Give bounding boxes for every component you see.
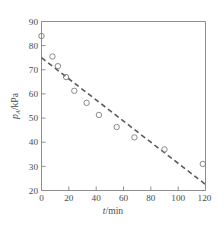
data-point	[84, 100, 89, 105]
y-axis-tick-labels: 20 30 40 50 60 70 80 90	[29, 17, 39, 196]
x-tick-label: 60	[119, 193, 129, 203]
x-tick-label: 0	[39, 193, 44, 203]
x-axis-ticks	[42, 187, 206, 191]
x-tick-label: 40	[92, 193, 102, 203]
y-axis-title: pA/kPa	[9, 92, 21, 120]
scatter-plot: 20 30 40 50 60 70 80 90 0 20 40 60 80 10…	[0, 0, 224, 227]
data-point	[96, 112, 101, 117]
y-tick-label: 30	[29, 162, 39, 172]
y-axis-ticks	[42, 22, 46, 191]
x-tick-label: 80	[146, 193, 156, 203]
svg-text:t/min: t/min	[103, 205, 123, 216]
data-point	[114, 124, 119, 129]
x-axis-tick-labels: 0 20 40 60 80 100 120	[39, 193, 212, 203]
x-axis-title: t/min	[103, 205, 123, 216]
svg-text:pA/kPa: pA/kPa	[9, 92, 21, 120]
x-axis-unit: /min	[106, 205, 124, 216]
chart-figure: 20 30 40 50 60 70 80 90 0 20 40 60 80 10…	[0, 0, 224, 227]
y-tick-label: 80	[29, 41, 39, 51]
data-point	[200, 161, 205, 166]
y-tick-label: 40	[29, 137, 39, 147]
data-point	[63, 74, 68, 79]
plot-frame	[42, 22, 206, 191]
y-tick-label: 60	[29, 89, 39, 99]
data-point	[162, 147, 167, 152]
trend-line-dashed	[42, 58, 206, 185]
y-tick-label: 50	[29, 113, 39, 123]
data-point	[55, 63, 60, 68]
data-point	[50, 54, 55, 59]
x-tick-label: 100	[171, 193, 185, 203]
y-tick-label: 20	[29, 186, 39, 196]
y-tick-label: 90	[29, 17, 39, 27]
y-tick-label: 70	[29, 65, 39, 75]
y-axis-unit: /kPa	[9, 92, 20, 110]
x-tick-label: 20	[64, 193, 74, 203]
data-point	[72, 88, 77, 93]
data-point	[132, 135, 137, 140]
data-point-markers	[39, 33, 206, 166]
x-tick-label: 120	[198, 193, 212, 203]
